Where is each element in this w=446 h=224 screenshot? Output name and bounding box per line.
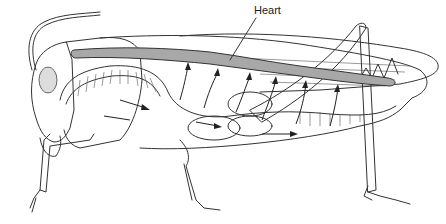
hind-tibia (360, 26, 376, 192)
head (32, 42, 75, 142)
antenna (29, 12, 100, 70)
grasshopper-illustration (0, 0, 446, 224)
front-leg (40, 134, 94, 192)
heart-label: Heart (254, 4, 281, 16)
compound-eye (39, 67, 57, 93)
grasshopper-circulatory-diagram (0, 0, 446, 224)
